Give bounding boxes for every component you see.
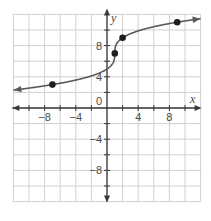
data-point [174, 19, 181, 26]
curve-arrow-right-icon [192, 17, 200, 23]
y-tick-label: −8 [89, 164, 102, 176]
data-points [49, 19, 180, 88]
x-tick-label: −8 [38, 111, 51, 123]
x-tick-label: −4 [70, 111, 83, 123]
data-point [49, 81, 56, 88]
coordinate-plane: −8−404884−4−8 x y [0, 0, 211, 221]
x-tick-label: 0 [96, 95, 102, 107]
y-tick-label: 8 [96, 40, 102, 52]
y-axis-arrow-up-icon [104, 8, 110, 15]
x-axis-label: x [189, 92, 196, 106]
y-axis-label: y [110, 11, 117, 25]
data-point [119, 35, 126, 42]
curve-arrow-left-icon [13, 86, 21, 92]
axes [12, 8, 201, 202]
y-tick-label: −4 [89, 133, 102, 145]
data-point [112, 50, 119, 57]
x-tick-label: 8 [166, 111, 172, 123]
x-tick-label: 4 [135, 111, 141, 123]
